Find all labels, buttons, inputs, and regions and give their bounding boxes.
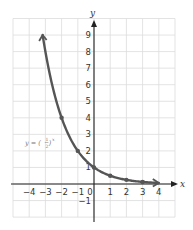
data-point bbox=[124, 178, 128, 182]
y-tick-label: 2 bbox=[86, 146, 91, 156]
x-tick-label: −3 bbox=[39, 187, 52, 197]
axes bbox=[11, 20, 178, 222]
equation-label: y = ( 1 2 ) x bbox=[24, 137, 55, 149]
y-axis-label: y bbox=[89, 8, 96, 18]
data-point bbox=[76, 149, 80, 153]
y-tick-label: −1 bbox=[78, 196, 91, 206]
data-point bbox=[108, 174, 112, 178]
x-axis-label: x bbox=[180, 179, 185, 189]
x-tick-label: 1 bbox=[107, 187, 112, 197]
equation-exponent: x bbox=[52, 137, 55, 142]
y-tick-label: 9 bbox=[86, 30, 91, 40]
svg-text:y = (: y = ( bbox=[24, 139, 41, 147]
x-tick-label: −2 bbox=[55, 187, 68, 197]
x-tick-label: 2 bbox=[124, 187, 129, 197]
x-tick-label: −4 bbox=[23, 187, 36, 197]
curve-line bbox=[43, 35, 159, 183]
y-tick-label: 5 bbox=[86, 96, 91, 106]
equation-lhs: y = ( bbox=[24, 139, 41, 147]
y-tick-label: 6 bbox=[86, 80, 91, 90]
data-point bbox=[92, 165, 96, 169]
x-tick-label: 4 bbox=[156, 187, 161, 197]
x-tick-label: 3 bbox=[140, 187, 145, 197]
curve-y-half-pow-x bbox=[39, 35, 159, 186]
y-axis-arrow-icon bbox=[91, 20, 97, 27]
data-point bbox=[59, 116, 63, 120]
exponential-graph: −4−3−2−101234987654321−1 x y y = ( 1 2 )… bbox=[0, 0, 193, 230]
y-tick-label: 3 bbox=[86, 129, 91, 139]
data-point bbox=[140, 180, 144, 184]
y-tick-label: 7 bbox=[86, 63, 91, 73]
y-tick-label: 4 bbox=[86, 113, 91, 123]
x-axis-arrow-icon bbox=[171, 181, 178, 187]
y-tick-label: 8 bbox=[86, 47, 91, 57]
